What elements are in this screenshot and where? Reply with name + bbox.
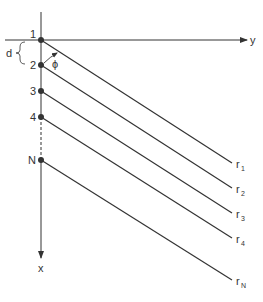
element-point-1 — [38, 37, 44, 43]
element-point-2 — [38, 62, 44, 68]
array-geometry-diagram: y x 1 2 3 4 N d ϕ r 1 r 2 r 3 r 4 r N — [0, 0, 263, 302]
x-axis-label: x — [38, 262, 44, 274]
element-point-4 — [38, 114, 44, 120]
svg-text:N: N — [241, 282, 246, 289]
svg-text:1: 1 — [241, 165, 245, 172]
ray-label-2: r 2 — [236, 183, 245, 197]
svg-text:3: 3 — [241, 215, 245, 222]
point-label-N: N — [28, 154, 36, 166]
spacing-label-d: d — [6, 47, 12, 59]
svg-text:4: 4 — [241, 240, 245, 247]
svg-text:r: r — [236, 233, 240, 245]
point-label-3: 3 — [30, 85, 36, 97]
svg-text:r: r — [236, 183, 240, 195]
spacing-brace — [16, 42, 25, 64]
svg-text:r: r — [236, 158, 240, 170]
element-point-3 — [38, 88, 44, 94]
svg-text:r: r — [236, 275, 240, 287]
ray-label-1: r 1 — [236, 158, 245, 172]
element-point-N — [38, 157, 44, 163]
ray-label-4: r 4 — [236, 233, 245, 247]
ray-label-3: r 3 — [236, 208, 245, 222]
ray-3 — [41, 91, 232, 213]
ray-1 — [41, 40, 232, 163]
ray-label-N: r N — [236, 275, 246, 289]
y-axis-label: y — [250, 34, 256, 46]
angle-label-phi: ϕ — [52, 58, 58, 70]
point-label-4: 4 — [30, 111, 36, 123]
svg-text:2: 2 — [241, 190, 245, 197]
point-label-2: 2 — [30, 59, 36, 71]
ray-2 — [41, 65, 232, 188]
point-label-1: 1 — [30, 28, 36, 40]
svg-text:r: r — [236, 208, 240, 220]
